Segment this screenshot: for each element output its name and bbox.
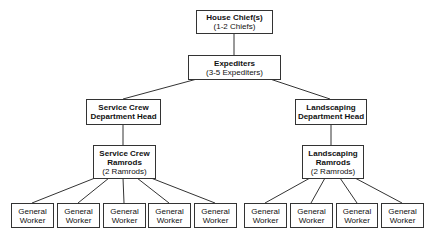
- service-crew-head-node: Service Crew Department Head: [86, 99, 161, 125]
- landscaping-ramrods-node: Landscaping Ramrods (2 Ramrods): [302, 145, 364, 179]
- worker-label-2: Worker: [382, 216, 423, 225]
- expediters-count: (3-5 Expediters): [189, 68, 280, 77]
- general-worker-node: General Worker: [336, 203, 378, 228]
- worker-label-1: General: [104, 207, 145, 216]
- worker-label-2: Worker: [12, 216, 53, 225]
- service-head-title-1: Service Crew: [87, 103, 160, 112]
- landscaping-head-title-2: Department Head: [296, 112, 366, 121]
- worker-label-2: Worker: [291, 216, 332, 225]
- worker-label-1: General: [195, 207, 236, 216]
- worker-label-1: General: [291, 207, 332, 216]
- house-chief-count: (1-2 Chiefs): [197, 22, 272, 31]
- general-worker-node: General Worker: [11, 203, 54, 228]
- landscaping-head-node: Landscaping Department Head: [295, 99, 367, 125]
- expediters-title: Expediters: [189, 59, 280, 68]
- general-worker-node: General Worker: [381, 203, 424, 228]
- house-chief-title: House Chief(s): [197, 13, 272, 22]
- worker-label-1: General: [245, 207, 286, 216]
- service-ramrods-count: (2 Ramrods): [94, 167, 155, 176]
- service-ramrods-title-2: Ramrods: [94, 158, 155, 167]
- service-ramrods-title-1: Service Crew: [94, 149, 155, 158]
- worker-label-1: General: [12, 207, 53, 216]
- house-chief-node: House Chief(s) (1-2 Chiefs): [196, 10, 273, 34]
- general-worker-node: General Worker: [290, 203, 333, 228]
- worker-label-1: General: [382, 207, 423, 216]
- worker-label-1: General: [58, 207, 99, 216]
- worker-label-2: Worker: [149, 216, 190, 225]
- general-worker-node: General Worker: [57, 203, 100, 228]
- expediters-node: Expediters (3-5 Expediters): [188, 55, 281, 80]
- general-worker-node: General Worker: [103, 203, 146, 228]
- worker-label-1: General: [337, 207, 377, 216]
- general-worker-node: General Worker: [194, 203, 237, 228]
- worker-label-2: Worker: [58, 216, 99, 225]
- service-crew-ramrods-node: Service Crew Ramrods (2 Ramrods): [93, 145, 156, 179]
- worker-label-1: General: [149, 207, 190, 216]
- worker-label-2: Worker: [245, 216, 286, 225]
- service-head-title-2: Department Head: [87, 112, 160, 121]
- general-worker-node: General Worker: [148, 203, 191, 228]
- general-worker-node: General Worker: [244, 203, 287, 228]
- landscaping-ramrods-count: (2 Ramrods): [303, 167, 363, 176]
- worker-label-2: Worker: [337, 216, 377, 225]
- landscaping-ramrods-title-2: Ramrods: [303, 158, 363, 167]
- worker-label-2: Worker: [104, 216, 145, 225]
- landscaping-ramrods-title-1: Landscaping: [303, 149, 363, 158]
- worker-label-2: Worker: [195, 216, 236, 225]
- landscaping-head-title-1: Landscaping: [296, 103, 366, 112]
